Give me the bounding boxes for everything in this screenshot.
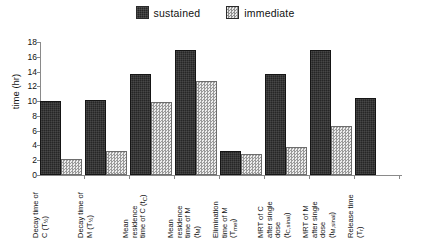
bar-group bbox=[40, 42, 85, 175]
bar-group bbox=[355, 42, 400, 175]
chart-legend: sustained immediate bbox=[0, 6, 430, 19]
bar-groups bbox=[40, 42, 400, 175]
bar-group bbox=[265, 42, 310, 175]
x-category-label: Release time(Tr) bbox=[347, 176, 361, 238]
bar-immediate[interactable] bbox=[286, 147, 307, 175]
x-category-label: MRT of Cafter singledose(tC,sinal) bbox=[257, 176, 271, 238]
y-tick-label: 10 bbox=[28, 97, 37, 106]
y-tick-label: 16 bbox=[28, 53, 37, 62]
bar-sustained[interactable] bbox=[265, 74, 286, 175]
y-tick-label: 14 bbox=[28, 67, 37, 76]
bar-sustained[interactable] bbox=[85, 100, 106, 175]
y-tick-label: 18 bbox=[28, 38, 37, 47]
bar-group bbox=[85, 42, 130, 175]
bar-immediate[interactable] bbox=[61, 159, 82, 175]
x-category-label: Meanresidencetime of C (tC) bbox=[122, 176, 136, 238]
bar-group bbox=[130, 42, 175, 175]
x-category-label: Decay time ofC (T½) bbox=[32, 176, 46, 238]
bar-group bbox=[175, 42, 220, 175]
bar-immediate[interactable] bbox=[241, 154, 262, 175]
dark-solid-square-icon bbox=[136, 6, 149, 19]
bar-immediate[interactable] bbox=[331, 126, 352, 176]
x-category-label: Eliminationtime of M(Tmel) bbox=[212, 176, 226, 238]
legend-entry-sustained: sustained bbox=[136, 6, 201, 19]
bar-immediate[interactable] bbox=[196, 81, 217, 175]
legend-entry-immediate: immediate bbox=[226, 6, 294, 19]
bar-immediate[interactable] bbox=[151, 102, 172, 175]
bar-sustained[interactable] bbox=[130, 74, 151, 175]
bar-sustained[interactable] bbox=[355, 98, 376, 175]
bar-sustained[interactable] bbox=[220, 151, 241, 175]
light-checker-square-icon bbox=[226, 6, 239, 19]
bar-group bbox=[310, 42, 355, 175]
bar-sustained[interactable] bbox=[40, 101, 61, 175]
bar-group bbox=[220, 42, 265, 175]
y-tick-label: 12 bbox=[28, 82, 37, 91]
x-category-label: Meanresidencetime of M(tM) bbox=[167, 176, 181, 238]
legend-label-sustained: sustained bbox=[154, 7, 201, 19]
bar-immediate[interactable] bbox=[106, 151, 127, 175]
bar-sustained[interactable] bbox=[310, 50, 331, 175]
legend-label-immediate: immediate bbox=[244, 7, 294, 19]
x-category-label: Decay time ofM (T½) bbox=[77, 176, 91, 238]
bar-sustained[interactable] bbox=[175, 50, 196, 175]
x-category-cell: Release time(Tr) bbox=[355, 176, 400, 240]
x-category-label: MRT of Mafter singledose(tM,sinal) bbox=[302, 176, 316, 238]
plot-area: 181614121086420 bbox=[40, 42, 400, 175]
y-axis-title: time (hr) bbox=[10, 57, 21, 127]
x-axis-category-labels: Decay time ofC (T½)Decay time ofM (T½)Me… bbox=[40, 176, 400, 240]
